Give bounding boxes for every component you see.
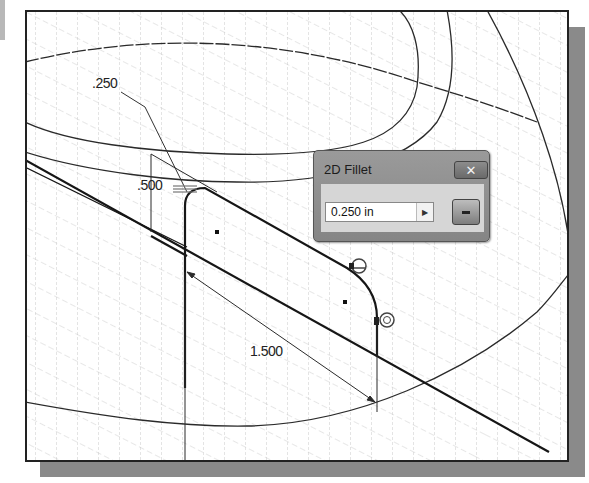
center-point[interactable]: [343, 300, 347, 304]
height-dimension[interactable]: .500: [137, 177, 162, 193]
close-button[interactable]: ✕: [454, 161, 488, 179]
expand-arrow-icon[interactable]: ▶: [416, 203, 433, 221]
close-icon: ✕: [466, 164, 477, 177]
radius-value[interactable]: 0.250 in: [326, 205, 416, 219]
panel-edge-strip: [0, 0, 5, 40]
dialog-title: 2D Fillet: [324, 162, 372, 177]
length-dimension[interactable]: 1.500: [250, 343, 283, 359]
radius-dimension[interactable]: .250: [92, 75, 117, 91]
equal-button[interactable]: [452, 199, 480, 225]
fillet-dialog[interactable]: 2D Fillet ✕ 0.250 in ▶: [313, 150, 490, 242]
radius-input[interactable]: 0.250 in ▶: [325, 202, 434, 222]
center-point[interactable]: [215, 230, 219, 234]
equal-icon: [462, 211, 470, 214]
